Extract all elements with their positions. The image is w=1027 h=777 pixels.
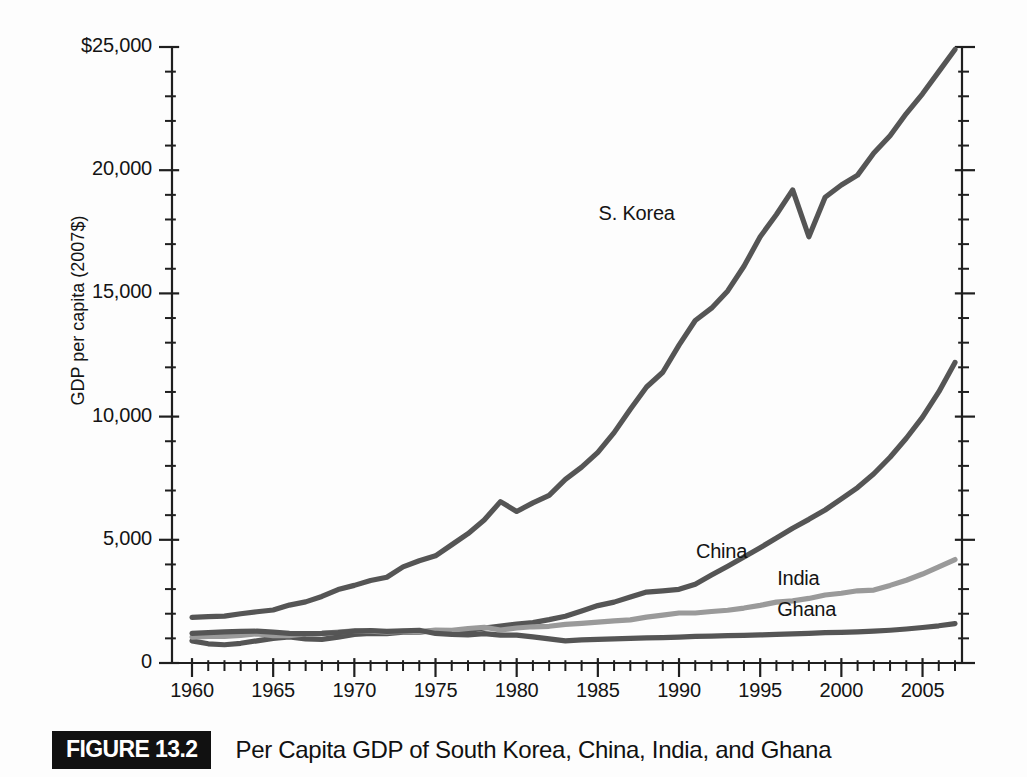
y-tick-label: 20,000 <box>92 157 152 180</box>
y-tick-label: 15,000 <box>92 280 152 303</box>
y-tick-label: 0 <box>141 650 152 673</box>
chart-svg <box>0 0 1027 700</box>
series-line-s-korea <box>192 49 955 617</box>
series-line-india <box>192 560 955 638</box>
x-tick-label: 2005 <box>873 679 973 702</box>
y-tick-label: 5,000 <box>103 527 152 550</box>
series-label-india: India <box>777 567 819 590</box>
figure-number-badge: FIGURE 13.2 <box>52 731 211 769</box>
figure-container: GDP per capita (2007$) 05,00010,00015,00… <box>0 0 1027 777</box>
y-tick-label: 10,000 <box>92 404 152 427</box>
figure-caption-text: Per Capita GDP of South Korea, China, In… <box>235 736 831 764</box>
series-label-china: China <box>696 540 747 563</box>
chart-plot-area: GDP per capita (2007$) 05,00010,00015,00… <box>0 0 1027 700</box>
series-label-ghana: Ghana <box>777 598 836 621</box>
y-tick-label: $25,000 <box>81 34 152 57</box>
figure-caption-bar: FIGURE 13.2 Per Capita GDP of South Kore… <box>0 722 1027 777</box>
y-axis-title: GDP per capita (2007$) <box>68 181 89 441</box>
series-label-s-korea: S. Korea <box>599 202 675 225</box>
